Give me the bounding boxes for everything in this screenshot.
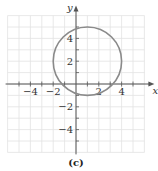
y-axis-label: y xyxy=(66,2,73,13)
y-tick-label: 4 xyxy=(67,33,73,44)
y-tick-label: 2 xyxy=(67,56,73,67)
x-axis-label: x xyxy=(152,85,158,96)
x-tick-label: −2 xyxy=(46,86,61,97)
x-tick-label: 2 xyxy=(96,86,102,97)
x-tick-label: −4 xyxy=(23,86,38,97)
figure-caption-text: (c) xyxy=(68,157,84,168)
circle-graph: −4−22442−2−4xy(c) xyxy=(0,0,158,171)
y-tick-label: −2 xyxy=(58,101,73,112)
x-tick-label: 4 xyxy=(118,86,124,97)
y-axis-arrow-icon xyxy=(74,6,79,12)
y-tick-label: −4 xyxy=(58,124,73,135)
